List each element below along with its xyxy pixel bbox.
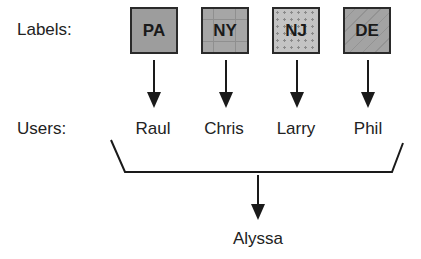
arrow-down-icon bbox=[251, 175, 265, 220]
arrow-down-icon bbox=[219, 60, 233, 108]
user-raul: Raul bbox=[136, 119, 171, 139]
arrow-down-icon bbox=[361, 60, 375, 108]
users-row-title: Users: bbox=[17, 119, 66, 139]
user-larry: Larry bbox=[277, 119, 316, 139]
aggregate-user-alyssa: Alyssa bbox=[233, 229, 283, 249]
user-chris: Chris bbox=[204, 119, 244, 139]
user-phil: Phil bbox=[354, 119, 382, 139]
arrow-down-icon bbox=[290, 60, 304, 108]
grouping-bracket bbox=[111, 140, 403, 172]
arrow-down-icon bbox=[147, 60, 161, 108]
